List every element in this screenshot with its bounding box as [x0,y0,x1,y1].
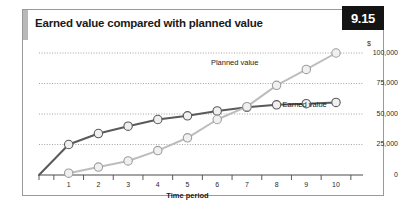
y-axis-tick-label: 75,000 [364,79,398,86]
data-point-marker [154,146,162,154]
x-axis-tick-label: 9 [299,181,313,188]
x-axis-tick-label: 5 [181,181,195,188]
data-point-marker [94,129,102,137]
data-point-marker [94,163,102,171]
y-axis-tick-label: 100,000 [364,49,398,56]
x-axis-tick-label: 1 [62,181,76,188]
data-point-marker [213,107,221,115]
data-point-marker [332,98,340,106]
y-axis-unit-label: $ [367,40,371,47]
x-axis-tick-label: 10 [329,181,343,188]
data-point-marker [213,115,221,123]
y-axis-tick-label: 0 [364,171,398,178]
data-point-marker [154,115,162,123]
x-axis-tick-label: 4 [151,181,165,188]
figure-panel: Earned value compared with planned value… [22,9,384,196]
chart-plot-area [23,10,385,197]
x-axis-tick-label: 6 [210,181,224,188]
x-axis-tick-label: 2 [91,181,105,188]
data-point-marker [243,102,251,110]
x-axis-title: Time period [128,191,248,200]
x-axis-tick-label: 8 [270,181,284,188]
data-point-marker [183,112,191,120]
data-point-marker [272,101,280,109]
data-point-marker [332,49,340,57]
y-axis-tick-label: 25,000 [364,140,398,147]
data-point-marker [124,157,132,165]
x-axis-tick-label: 7 [240,181,254,188]
series-annotation-earned-value: Earned value [283,100,327,109]
series-annotation-planned-value: Planned value [211,58,259,67]
data-point-marker [272,81,280,89]
data-point-marker [124,122,132,130]
x-axis-tick-label: 3 [121,181,135,188]
data-point-marker [65,169,73,177]
data-point-marker [302,65,310,73]
data-point-marker [65,140,73,148]
y-axis-tick-label: 50,000 [364,110,398,117]
data-point-marker [183,134,191,142]
